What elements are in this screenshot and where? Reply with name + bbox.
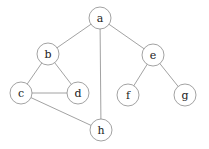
node-label: b <box>44 48 51 61</box>
node-f: f <box>117 84 139 106</box>
node-g: g <box>174 84 196 106</box>
node-label: a <box>97 12 104 25</box>
node-label: h <box>97 124 104 137</box>
node-label: e <box>150 49 157 62</box>
node-label: d <box>74 87 81 100</box>
edge-a-h <box>100 18 101 130</box>
edges-group <box>21 18 185 130</box>
node-e: e <box>142 44 164 66</box>
edge-c-h <box>21 93 101 130</box>
node-d: d <box>67 82 89 104</box>
node-label: c <box>18 87 24 100</box>
node-a: a <box>89 7 111 29</box>
node-c: c <box>10 82 32 104</box>
node-b: b <box>37 43 59 65</box>
node-h: h <box>90 119 112 141</box>
node-label: g <box>181 89 188 102</box>
graph-diagram: abcdefgh <box>0 0 209 149</box>
